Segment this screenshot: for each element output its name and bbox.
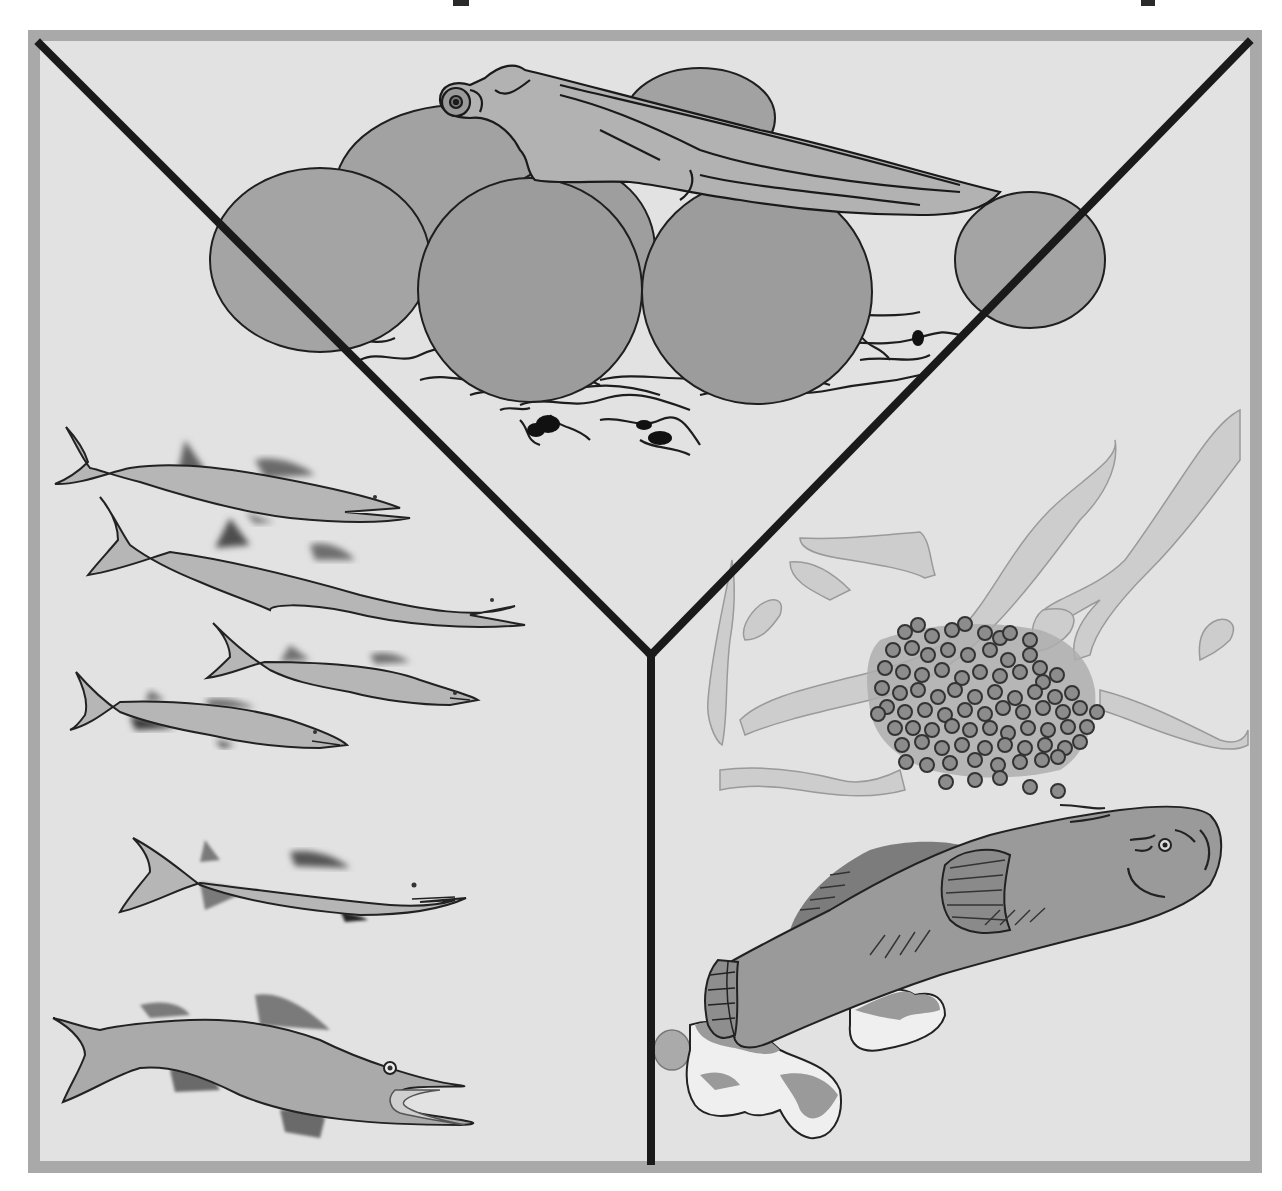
attachment-node [527,423,545,437]
egg [642,180,872,404]
attachment-node [648,431,672,445]
attachment-node [636,420,652,430]
attachment-node [912,330,924,346]
pebble [654,1030,690,1070]
egg [418,178,642,402]
fish-life-cycle-illustration [0,0,1282,1191]
